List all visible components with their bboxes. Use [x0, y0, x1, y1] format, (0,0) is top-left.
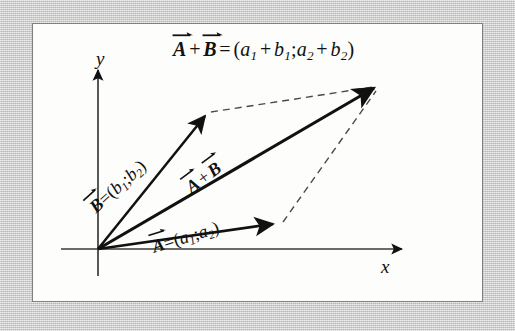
- vector-a-letter: A: [173, 38, 187, 60]
- vector-b-letter: B: [203, 38, 217, 60]
- component-b1: b: [274, 38, 284, 60]
- component-a1: a: [240, 38, 250, 60]
- sum-formula-label: A+B=(a1+b1;a2+b2): [173, 39, 354, 62]
- close-paren: ): [347, 38, 354, 60]
- construction-line-b-to-resultant: [211, 87, 373, 112]
- component-a2-subscript: 2: [307, 48, 314, 63]
- inner-plus-2: +: [314, 38, 331, 60]
- y-axis-label: y: [96, 49, 104, 68]
- vector-b-symbol: B: [203, 39, 217, 59]
- construction-line-a-to-resultant: [283, 91, 376, 222]
- vector-a-symbol: A: [173, 39, 187, 59]
- inner-plus-1: +: [257, 38, 274, 60]
- component-b1-subscript: 1: [284, 48, 291, 63]
- x-axis-label: x: [381, 257, 389, 276]
- figure-root: y x A+B=(a1+b1;a2+b2) B=(b1;b2) A+B A=(a…: [0, 0, 515, 331]
- component-b2: b: [330, 38, 340, 60]
- figure-panel: y x A+B=(a1+b1;a2+b2) B=(b1;b2) A+B A=(a…: [32, 23, 483, 302]
- equals-sign: =: [217, 38, 234, 60]
- plus-sign: +: [187, 38, 204, 60]
- component-a2: a: [297, 38, 307, 60]
